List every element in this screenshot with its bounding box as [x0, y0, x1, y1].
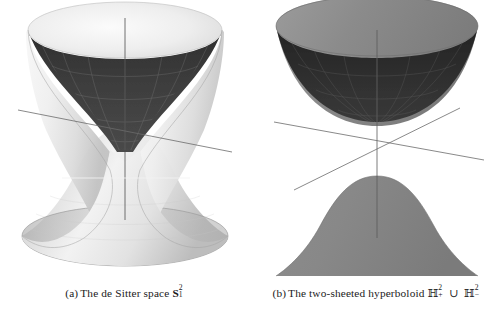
caption-b-text: The two-sheeted hyperboloid	[288, 287, 424, 299]
symbol-b-left-subscript: +	[438, 290, 442, 299]
caption-a-label: (a)	[65, 287, 78, 299]
two-sheeted-hyperboloid-graphic	[250, 0, 503, 286]
caption-b-symbol-left: ℍ2+	[428, 287, 448, 299]
symbol-b-right-scripts: 2−	[475, 286, 481, 297]
symbol-a-scripts: 21	[179, 286, 185, 297]
subfigure-b: (b)The two-sheeted hyperboloid ℍ2+ ∪ ℍ2−	[250, 0, 503, 316]
symbol-b-right-subscript: −	[475, 290, 479, 299]
caption-b-label: (b)	[272, 287, 286, 299]
caption-a-text: The de Sitter space	[80, 287, 169, 299]
symbol-b-left-base: ℍ	[428, 287, 439, 299]
caption-a: (a)The de Sitter space S21	[0, 286, 250, 299]
union-symbol: ∪	[449, 287, 459, 299]
symbol-b-right-base: ℍ	[464, 287, 475, 299]
symbol-b-left-scripts: 2+	[438, 286, 444, 297]
diagonal-axis-1	[274, 122, 484, 160]
one-sheeted-hyperboloid-graphic	[0, 0, 250, 286]
caption-a-symbol: S21	[172, 287, 184, 299]
figure-panel: (a)The de Sitter space S21	[0, 0, 503, 316]
subfigure-a: (a)The de Sitter space S21	[0, 0, 250, 316]
caption-b: (b)The two-sheeted hyperboloid ℍ2+ ∪ ℍ2−	[250, 286, 503, 300]
caption-b-symbol-right: ℍ2−	[461, 287, 481, 299]
symbol-a-subscript: 1	[179, 290, 183, 299]
